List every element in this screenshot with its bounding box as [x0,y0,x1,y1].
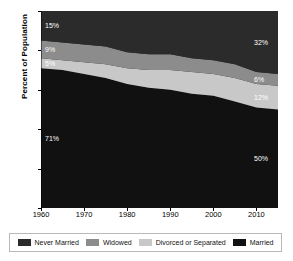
stacked-area-chart: Percent of Population 020406080100 19601… [0,0,293,261]
legend-item[interactable]: Married [233,239,274,246]
x-tick-mark [127,208,128,211]
band-label-end: 32% [254,39,268,46]
x-tick-label: 1980 [107,211,147,219]
band-label-end: 6% [254,76,264,83]
plot-area [41,11,278,208]
chart-legend: Never MarriedWidowedDivorced or Separate… [9,233,282,252]
legend-label: Divorced or Separated [156,239,226,246]
plot-svg [41,11,278,208]
band-label-end: 50% [254,155,268,162]
x-tick-label: 1960 [21,211,61,219]
x-tick-label: 1970 [64,211,104,219]
x-tick-mark [256,208,257,211]
legend-label: Widowed [103,239,132,246]
band-label-start: 5% [45,60,55,67]
band-label-start: 15% [45,22,59,29]
band-label-end: 12% [254,94,268,101]
x-tick-label: 2010 [236,211,276,219]
y-axis-title: Percent of Population [20,0,29,137]
legend-label: Never Married [35,239,79,246]
legend-swatch [139,239,152,246]
legend-swatch [233,239,246,246]
legend-item[interactable]: Divorced or Separated [139,239,226,246]
x-tick-mark [213,208,214,211]
legend-swatch [86,239,99,246]
legend-item[interactable]: Never Married [18,239,79,246]
x-tick-label: 2000 [193,211,233,219]
legend-swatch [18,239,31,246]
legend-item[interactable]: Widowed [86,239,132,246]
x-tick-mark [84,208,85,211]
x-tick-label: 1990 [150,211,190,219]
band-label-start: 9% [45,46,55,53]
band-label-start: 71% [45,135,59,142]
legend-label: Married [250,239,274,246]
x-tick-mark [170,208,171,211]
x-tick-mark [41,208,42,211]
